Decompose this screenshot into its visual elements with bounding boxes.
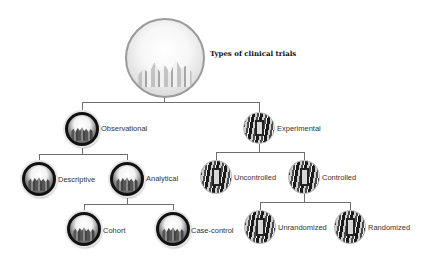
connector-to-unrandomized bbox=[260, 202, 261, 210]
observational-label: Observational bbox=[101, 124, 147, 133]
connector-observational-bar bbox=[39, 154, 128, 155]
root-node-lab-glassware-icon bbox=[125, 18, 205, 98]
connector-to-controlled bbox=[304, 152, 305, 160]
root-label: Types of clinical trials bbox=[210, 49, 296, 58]
connector-to-analytical bbox=[127, 154, 128, 162]
connector-experimental-stem bbox=[259, 144, 260, 152]
connector-to-experimental bbox=[259, 102, 260, 112]
randomized-label: Randomized bbox=[368, 223, 410, 232]
cohort-label: Cohort bbox=[103, 226, 126, 235]
randomized-node-person-icon bbox=[334, 210, 366, 244]
analytical-label: Analytical bbox=[146, 174, 178, 183]
unrandomized-node-person-icon bbox=[244, 210, 276, 244]
case-control-node-crowd-icon bbox=[156, 212, 190, 246]
uncontrolled-node-person-icon bbox=[200, 160, 232, 194]
connector-analytical-bar bbox=[84, 204, 174, 205]
controlled-node-person-icon bbox=[288, 160, 320, 194]
connector-to-observational bbox=[82, 102, 83, 112]
experimental-label: Experimental bbox=[277, 124, 321, 133]
analytical-node-crowd-icon bbox=[110, 162, 144, 196]
connector-controlled-stem bbox=[304, 194, 305, 202]
descriptive-node-crowd-icon bbox=[22, 162, 56, 196]
connector-to-case-control bbox=[173, 204, 174, 212]
connector-experimental-bar bbox=[216, 152, 305, 153]
connector-observational-stem bbox=[82, 146, 83, 154]
cohort-node-crowd-icon bbox=[67, 212, 101, 246]
case-control-label: Case-control bbox=[191, 226, 234, 235]
unrandomized-label: Unrandomized bbox=[278, 223, 327, 232]
connector-to-uncontrolled bbox=[216, 152, 217, 160]
descriptive-label: Descriptive bbox=[58, 175, 95, 184]
uncontrolled-label: Uncontrolled bbox=[234, 173, 276, 182]
connector-analytical-stem bbox=[127, 196, 128, 204]
controlled-label: Controlled bbox=[322, 173, 356, 182]
connector-to-randomized bbox=[350, 202, 351, 210]
connector-to-cohort bbox=[84, 204, 85, 212]
observational-node-crowd-icon bbox=[65, 112, 99, 146]
connector-to-descriptive bbox=[39, 154, 40, 162]
connector-root-bar bbox=[82, 102, 260, 103]
experimental-node-person-icon bbox=[243, 112, 275, 144]
connector-controlled-bar bbox=[260, 202, 351, 203]
